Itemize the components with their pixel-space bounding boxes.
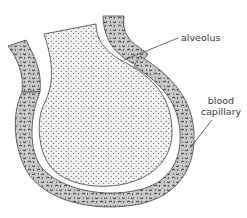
label-blood-capillary-line1: blood — [196, 95, 246, 106]
label-blood-capillary: blood capillary — [196, 95, 246, 117]
label-blood-capillary-line2: capillary — [196, 106, 246, 117]
label-alveolus: alveolus — [181, 32, 220, 43]
